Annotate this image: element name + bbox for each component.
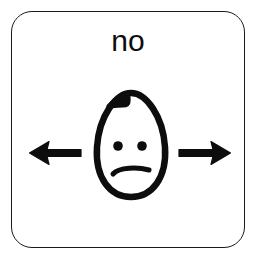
arrow-left-icon xyxy=(26,134,86,172)
face-icon xyxy=(88,86,174,204)
pictogram-card[interactable]: no xyxy=(0,0,260,257)
page-title: no xyxy=(11,24,245,58)
face-outline xyxy=(97,93,165,197)
right-eye-icon xyxy=(137,141,147,151)
hair-curl-icon xyxy=(108,97,129,106)
left-eye-icon xyxy=(113,141,123,151)
arrow-right-icon xyxy=(174,134,234,172)
